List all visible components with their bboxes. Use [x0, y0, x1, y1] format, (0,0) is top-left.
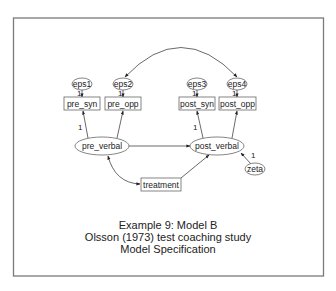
node-post-verbal: post_verbal	[190, 137, 244, 155]
label-post-verbal-post-syn: 1	[193, 123, 198, 132]
node-eps3: eps3	[187, 78, 207, 90]
pre-syn-label: pre_syn	[67, 99, 98, 109]
label-pre-verbal-pre-syn: 1	[78, 123, 83, 132]
eps3-label: eps3	[188, 79, 207, 89]
caption-line-2: Olsson (1973) test coaching study	[85, 231, 252, 243]
pre-verbal-label: pre_verbal	[82, 141, 122, 151]
node-eps2: eps2	[113, 78, 133, 90]
post-opp-label: post_opp	[220, 99, 255, 109]
node-pre-opp: pre_opp	[105, 97, 141, 110]
eps2-label: eps2	[114, 79, 133, 89]
node-post-syn: post_syn	[179, 97, 215, 110]
sem-path-diagram: eps1 eps2 eps3 eps4 1 1 1 1 pre_syn pre_…	[0, 0, 336, 291]
node-eps4: eps4	[227, 78, 247, 90]
treatment-label: treatment	[143, 180, 180, 190]
node-zeta: zeta	[245, 163, 265, 175]
node-pre-verbal: pre_verbal	[75, 137, 129, 155]
post-syn-label: post_syn	[180, 99, 214, 109]
zeta-label: zeta	[247, 164, 263, 174]
eps1-label: eps1	[73, 79, 92, 89]
node-treatment: treatment	[141, 178, 181, 191]
eps4-label: eps4	[228, 79, 247, 89]
diagram-canvas: eps1 eps2 eps3 eps4 1 1 1 1 pre_syn pre_…	[0, 0, 336, 291]
node-pre-syn: pre_syn	[64, 97, 100, 110]
node-eps1: eps1	[72, 78, 92, 90]
caption-line-1: Example 9: Model B	[119, 219, 217, 231]
node-post-opp: post_opp	[219, 97, 256, 110]
caption-line-3: Model Specification	[120, 243, 215, 255]
label-zeta-post-verbal: 1	[251, 151, 256, 160]
pre-opp-label: pre_opp	[107, 99, 138, 109]
post-verbal-label: post_verbal	[195, 141, 239, 151]
